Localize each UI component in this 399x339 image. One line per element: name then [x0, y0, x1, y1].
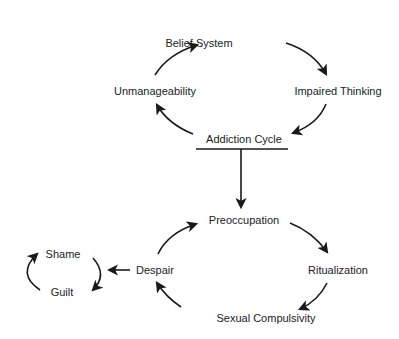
node-shame: Shame [46, 248, 81, 260]
arrow-unmanageability-to-belief-icon [155, 45, 197, 75]
addiction-cycle-diagram: Belief System Impaired Thinking Addictio… [0, 0, 399, 339]
node-belief-system: Belief System [165, 37, 232, 49]
arrow-compulsivity-to-despair-icon [157, 283, 181, 307]
node-addiction-cycle: Addiction Cycle [206, 133, 282, 145]
arrow-belief-to-impaired-icon [286, 43, 326, 74]
node-preoccupation: Preoccupation [209, 214, 279, 226]
arrow-despair-to-preoccupation-icon [158, 224, 196, 254]
arrow-guilt-to-shame-icon [27, 254, 40, 290]
node-guilt: Guilt [51, 286, 74, 298]
arrow-shame-to-guilt-icon [93, 258, 101, 290]
arrow-preoccupation-to-ritualization-icon [290, 223, 327, 252]
arrow-impaired-to-addiction-icon [293, 104, 326, 133]
node-sexual-compulsivity: Sexual Compulsivity [216, 312, 316, 324]
node-unmanageability: Unmanageability [114, 85, 196, 97]
arrow-addiction-to-unmanageability-icon [157, 105, 193, 134]
node-despair: Despair [136, 264, 174, 276]
node-impaired-thinking: Impaired Thinking [294, 85, 381, 97]
node-ritualization: Ritualization [308, 264, 368, 276]
arrow-ritualization-to-compulsivity-icon [300, 283, 327, 309]
